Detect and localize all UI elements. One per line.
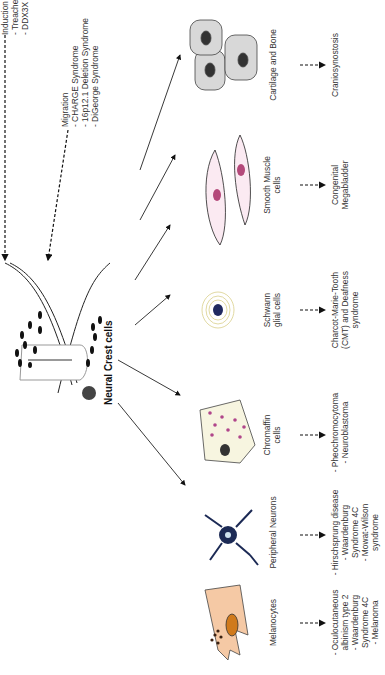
stage-induction: Induction and EMT- Treacher Collins Synd… xyxy=(0,0,30,35)
label-melanocytes: Melanocytes xyxy=(268,590,278,655)
disorders-peripheral-neurons: - Hirschsprung disease- WaardenburgSyndr… xyxy=(330,485,380,580)
disorders-cartilage-bone: Craniosynostosis xyxy=(330,25,340,105)
peripheral-neuron-icon xyxy=(205,510,258,565)
chromaffin-cell-icon xyxy=(200,400,255,463)
disorders-melanocytes: - Oculocutaneousalbinism type 2- Waarden… xyxy=(330,580,380,665)
neural-tube-icon xyxy=(5,263,110,400)
stage-migration: Migration- CHARGE Syndrome- 16p12.1 Dele… xyxy=(60,18,100,127)
melanocyte-icon xyxy=(205,585,248,660)
schwann-cell-icon xyxy=(202,292,234,328)
label-cartilage-bone: Cartilage and Bone xyxy=(268,25,278,105)
disorders-smooth-muscle: CongenitalMegabladder xyxy=(330,150,350,220)
figure-canvas: Induction and EMT- Treacher Collins Synd… xyxy=(0,0,385,675)
smooth-muscle-icon xyxy=(206,135,251,245)
disorders-schwann: Charcot-Marie-Tooth(CMT) and Deafnesssyn… xyxy=(330,265,360,355)
label-peripheral-neurons: Peripheral Neurons xyxy=(268,490,278,575)
diagram-title: Neural Crest cells xyxy=(104,321,114,406)
disorder-arrows xyxy=(300,65,325,623)
label-schwann: Schwannglial cells xyxy=(262,280,282,340)
derivation-arrows xyxy=(118,55,185,485)
disorders-chromaffin: - Pheochromocytoma- Neuroblastoma xyxy=(330,390,350,475)
migration-arrow xyxy=(48,130,68,260)
label-smooth-muscle: Smooth Musclecells xyxy=(262,150,282,220)
cartilage-bone-icon xyxy=(190,20,257,90)
diagram-graphics xyxy=(0,0,385,675)
label-chromaffin: Chromaffincells xyxy=(262,405,282,465)
